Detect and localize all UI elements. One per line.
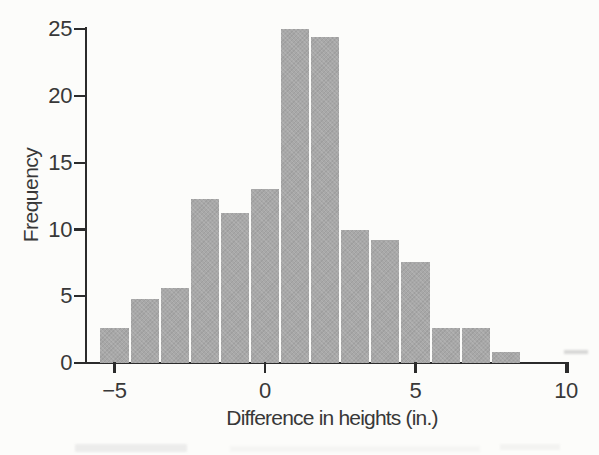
y-tick <box>74 295 86 297</box>
histogram-bar <box>251 189 279 363</box>
y-tick <box>74 228 86 230</box>
histogram-bar <box>100 328 128 363</box>
y-tick <box>74 95 86 97</box>
histogram-bar <box>371 240 399 363</box>
scan-artifact-cutoff-caption <box>75 444 187 452</box>
histogram-bar <box>432 328 460 363</box>
histogram-figure: 0510152025 −50510 Frequency Difference i… <box>0 0 599 455</box>
histogram-bar <box>281 29 309 363</box>
y-axis-title: Frequency <box>19 148 43 243</box>
histogram-bar <box>401 262 429 363</box>
x-tick-label: −5 <box>83 380 147 402</box>
y-tick <box>74 162 86 164</box>
y-tick <box>74 362 86 364</box>
x-tick <box>414 362 416 373</box>
x-tick-label: 0 <box>233 380 297 402</box>
y-tick <box>74 28 86 30</box>
histogram-bar <box>492 352 520 363</box>
x-tick <box>264 362 266 373</box>
y-tick-label: 5 <box>28 285 72 307</box>
scan-artifact-cutoff-caption <box>500 444 560 450</box>
histogram-bar <box>191 199 219 363</box>
histogram-bar <box>462 328 490 363</box>
y-tick-label: 0 <box>28 352 72 374</box>
histogram-bar <box>161 288 189 363</box>
x-axis-title: Difference in heights (in.) <box>171 406 493 430</box>
y-tick-label: 20 <box>28 85 72 107</box>
y-tick-label: 25 <box>28 18 72 40</box>
histogram-bar <box>341 230 369 364</box>
x-tick <box>565 362 567 373</box>
histogram-bar <box>221 213 249 363</box>
scan-artifact-cutoff-caption <box>230 446 480 452</box>
scan-artifact-right-dash <box>564 350 588 354</box>
y-axis-line <box>85 27 87 364</box>
histogram-bar <box>131 299 159 363</box>
x-tick-label: 5 <box>384 380 448 402</box>
x-tick-label: 10 <box>534 380 598 402</box>
histogram-bar <box>311 37 339 363</box>
x-tick <box>113 362 115 373</box>
